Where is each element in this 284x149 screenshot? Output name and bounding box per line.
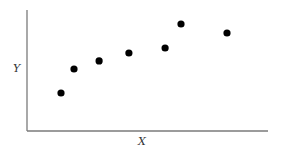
data-point (57, 89, 64, 96)
plot-area (0, 0, 284, 149)
data-point (125, 49, 132, 56)
data-points (57, 20, 230, 96)
x-axis-label: X (138, 136, 146, 147)
data-point (177, 20, 184, 27)
scatter-chart: Y X (0, 0, 284, 149)
data-point (162, 44, 169, 51)
y-axis-label: Y (13, 63, 20, 74)
data-point (96, 57, 103, 64)
data-point (70, 65, 77, 72)
data-point (223, 29, 230, 36)
